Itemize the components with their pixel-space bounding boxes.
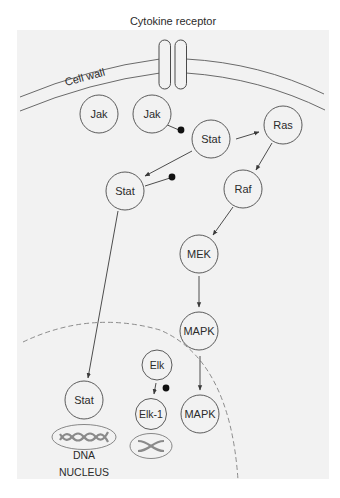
nucleus-label: NUCLEUS <box>59 466 109 478</box>
svg-text:Jak: Jak <box>143 108 161 120</box>
svg-text:Stat: Stat <box>74 394 94 406</box>
node-mapk-2: MAPK <box>181 395 219 433</box>
phosphate-dot <box>163 385 170 392</box>
svg-text:MAPK: MAPK <box>184 408 216 420</box>
cytokine-receptor-label: Cytokine receptor <box>130 15 217 27</box>
node-mapk-1: MAPK <box>180 312 218 350</box>
phosphate-dot <box>169 174 176 181</box>
svg-text:Ras: Ras <box>273 119 293 131</box>
signaling-pathway-diagram: Cytokine receptor Cell wall Jak <box>0 0 340 498</box>
diagram-panel <box>17 30 329 479</box>
svg-text:Raf: Raf <box>234 183 252 195</box>
svg-text:MEK: MEK <box>187 248 212 260</box>
node-stat-3: Stat <box>65 381 103 419</box>
node-jak-1: Jak <box>80 95 118 133</box>
svg-text:Stat: Stat <box>201 133 221 145</box>
svg-text:Stat: Stat <box>115 185 135 197</box>
node-stat-2: Stat <box>106 172 144 210</box>
phosphate-dot <box>178 127 185 134</box>
dna-small <box>130 434 172 459</box>
svg-text:Elk-1: Elk-1 <box>139 408 163 420</box>
node-elk: Elk <box>142 350 172 380</box>
svg-text:MAPK: MAPK <box>183 325 215 337</box>
svg-text:Jak: Jak <box>90 108 108 120</box>
node-raf: Raf <box>224 170 262 208</box>
svg-text:Elk: Elk <box>150 359 165 371</box>
node-stat-1: Stat <box>192 120 230 158</box>
dna-large <box>52 425 116 450</box>
node-jak-2: Jak <box>133 95 171 133</box>
node-mek: MEK <box>180 235 218 273</box>
node-ras: Ras <box>264 106 302 144</box>
node-elk-1: Elk-1 <box>136 399 167 430</box>
dna-label: DNA <box>73 449 95 461</box>
